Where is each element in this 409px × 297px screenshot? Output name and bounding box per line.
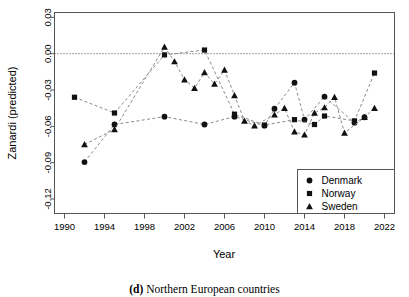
y-tick-label: -0.09 bbox=[42, 152, 53, 174]
series-sweden bbox=[81, 44, 378, 148]
data-point bbox=[201, 69, 208, 75]
y-tick-label: 0.00 bbox=[42, 44, 53, 63]
series-norway bbox=[72, 47, 377, 127]
figure-caption: (d) Northern European countries bbox=[0, 283, 409, 295]
x-tick-label: 1998 bbox=[134, 221, 155, 232]
data-point bbox=[82, 159, 88, 165]
series-line bbox=[85, 47, 375, 144]
data-point bbox=[251, 122, 258, 128]
data-point bbox=[331, 94, 338, 100]
zanardi-predicted-line-chart: Zanardi (predicted) Year 0.030.00-0.03-0… bbox=[0, 0, 409, 262]
y-axis-ticks: 0.030.00-0.03-0.06-0.09-0.12 bbox=[42, 8, 55, 210]
data-point bbox=[112, 110, 117, 115]
data-point bbox=[372, 70, 377, 75]
data-point bbox=[162, 114, 168, 120]
data-point bbox=[322, 113, 327, 118]
y-tick-label: -0.03 bbox=[42, 79, 53, 101]
x-tick-label: 2006 bbox=[214, 221, 235, 232]
x-tick-label: 1994 bbox=[94, 221, 115, 232]
caption-text: Northern European countries bbox=[146, 283, 279, 295]
data-point bbox=[371, 105, 378, 111]
legend-label-sweden: Sweden bbox=[322, 201, 358, 212]
data-point bbox=[232, 112, 237, 117]
x-tick-label: 1990 bbox=[54, 221, 75, 232]
data-point bbox=[81, 141, 88, 147]
data-point bbox=[312, 122, 317, 127]
data-point bbox=[281, 105, 288, 111]
data-point bbox=[72, 95, 77, 100]
data-point bbox=[301, 131, 308, 137]
data-point bbox=[202, 122, 208, 128]
x-tick-label: 2014 bbox=[294, 221, 315, 232]
square-legend-icon bbox=[307, 191, 312, 196]
data-point bbox=[191, 85, 198, 91]
data-point bbox=[231, 92, 238, 98]
x-tick-label: 2002 bbox=[174, 221, 195, 232]
caption-prefix: (d) bbox=[129, 283, 143, 295]
series-line bbox=[75, 50, 375, 125]
x-axis-ticks: 199019941998200220062010201420182022 bbox=[54, 214, 395, 232]
chart-legend: DenmarkNorwaySweden bbox=[298, 170, 395, 214]
x-axis-title: Year bbox=[213, 248, 236, 260]
data-point bbox=[162, 52, 167, 57]
legend-label-norway: Norway bbox=[322, 188, 356, 199]
data-point bbox=[292, 117, 297, 122]
data-series-group bbox=[72, 44, 378, 165]
data-point bbox=[292, 80, 298, 86]
y-axis-title: Zanardi (predicted) bbox=[6, 67, 18, 160]
y-tick-label: -0.12 bbox=[42, 188, 53, 210]
data-point bbox=[291, 128, 298, 134]
circle-legend-icon bbox=[307, 178, 313, 184]
data-point bbox=[262, 123, 267, 128]
legend-label-denmark: Denmark bbox=[322, 175, 364, 186]
data-point bbox=[161, 44, 168, 50]
y-tick-label: 0.03 bbox=[42, 8, 53, 27]
data-point bbox=[171, 58, 178, 64]
chart-figure: Zanardi (predicted) Year 0.030.00-0.03-0… bbox=[0, 0, 409, 297]
data-point bbox=[221, 67, 228, 73]
data-point bbox=[322, 94, 328, 100]
data-point bbox=[181, 76, 188, 82]
data-point bbox=[202, 47, 207, 52]
data-point bbox=[272, 106, 278, 112]
x-tick-label: 2010 bbox=[254, 221, 275, 232]
x-tick-label: 2022 bbox=[374, 221, 395, 232]
x-tick-label: 2018 bbox=[334, 221, 355, 232]
data-point bbox=[352, 118, 357, 123]
y-tick-label: -0.06 bbox=[42, 115, 53, 137]
